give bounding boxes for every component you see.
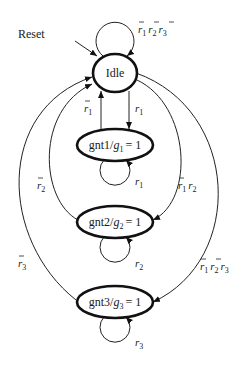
gnt3-self-loop-arrow <box>100 317 130 342</box>
transition-gnt3-idle: r3 <box>18 77 92 300</box>
state-gnt3: gnt3/g3= 1 <box>77 286 153 318</box>
svg-text:r1r2: r1r2 <box>178 179 197 194</box>
svg-text:r3: r3 <box>18 257 26 272</box>
transition-gnt3-gnt3: r3 <box>100 317 143 351</box>
svg-text:r3: r3 <box>135 336 143 351</box>
transition-gnt1-idle: r1 <box>84 91 101 129</box>
state-gnt3-label: gnt3/g3= 1 <box>89 295 141 311</box>
transition-idle-gnt1: r1 <box>129 91 143 129</box>
svg-text:r2: r2 <box>37 179 45 194</box>
svg-text:r1r2r3: r1r2r3 <box>138 23 167 38</box>
state-idle-label: Idle <box>106 66 125 80</box>
transition-gnt1-gnt1: r1 <box>100 160 143 190</box>
arrow-gnt3-to-idle <box>19 77 92 300</box>
state-gnt2: gnt2/g2= 1 <box>77 206 153 238</box>
label-r1-bar: r1 <box>84 102 92 117</box>
state-diagram: Reset r1r2r3 r1 r1 r1 r2 r1r2 <box>0 0 244 370</box>
state-idle: Idle <box>93 54 137 92</box>
transition-idle-idle: r1r2r3 <box>96 22 174 56</box>
idle-self-loop-arrow <box>96 22 134 56</box>
label-r1: r1 <box>135 102 143 117</box>
reset-label: Reset <box>18 27 45 41</box>
label-idle-self: r1r2r3 <box>138 22 174 38</box>
state-gnt2-label: gnt2/g2= 1 <box>89 215 141 231</box>
transition-gnt2-gnt2: r2 <box>100 237 143 272</box>
reset-transition: Reset <box>18 27 97 56</box>
svg-text:r2: r2 <box>135 257 143 272</box>
state-gnt1-label: gnt1/g1= 1 <box>89 138 141 154</box>
gnt1-self-loop-arrow <box>100 160 130 185</box>
reset-arrow <box>75 41 97 56</box>
gnt2-self-loop-arrow <box>100 237 130 262</box>
state-gnt1: gnt1/g1= 1 <box>77 129 153 161</box>
svg-text:r1r2r3: r1r2r3 <box>200 260 229 275</box>
svg-text:r1: r1 <box>135 175 143 190</box>
